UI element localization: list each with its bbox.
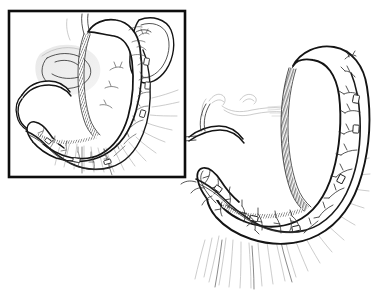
context-inset-panel — [9, 11, 185, 177]
illustration-canvas: Sleeve gastrectomy with preserved gastro… — [0, 0, 381, 296]
medical-illustration-svg — [0, 0, 381, 296]
